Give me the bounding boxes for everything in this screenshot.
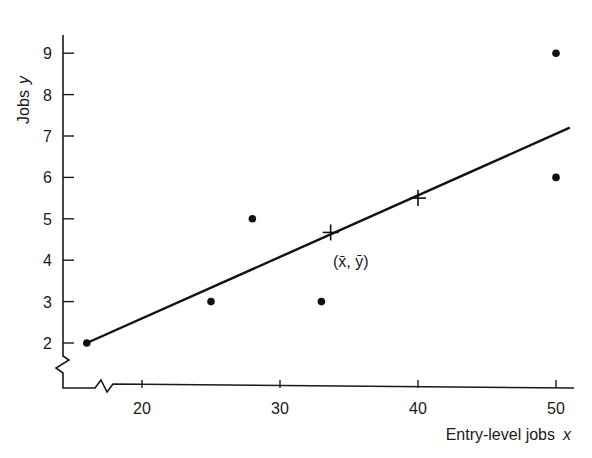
data-point [249,215,257,223]
ticks [63,53,556,388]
y-axis [56,35,574,392]
data-point [318,298,326,306]
data-points [83,49,560,346]
mean-annotation: (x̄, ȳ) [333,253,369,270]
x-tick-label: 20 [133,400,151,417]
x-tick-label: 40 [409,400,427,417]
y-tick-label: 7 [43,128,52,145]
y-tick-label: 2 [43,335,52,352]
regression-line [87,128,570,343]
y-tick-label: 8 [43,87,52,104]
y-tick-label: 6 [43,169,52,186]
y-tick-label: 5 [43,211,52,228]
y-tick-label: 3 [43,294,52,311]
x-axis-label: Entry-level jobsx [446,426,572,443]
y-axis-label: Jobsy [15,75,32,124]
y-tick-label: 4 [43,252,52,269]
y-tick-label: 9 [43,45,52,62]
scatter-chart: 2030405023456789 Jobsy Entry-level jobsx… [0,0,592,458]
axes [56,35,574,392]
data-point [552,174,560,182]
data-point [83,339,91,347]
x-tick-label: 30 [271,400,289,417]
x-tick-label: 50 [547,400,565,417]
tick-labels: 2030405023456789 [43,45,565,417]
data-point [552,49,560,57]
data-point [207,298,215,306]
